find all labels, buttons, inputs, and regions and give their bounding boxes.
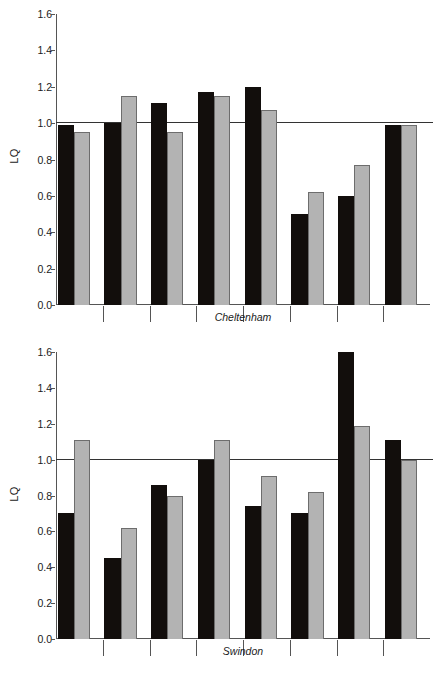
- y-tick-label: 1.2: [26, 419, 52, 429]
- y-axis-tick-labels: 0.00.20.40.60.81.01.21.41.6: [22, 0, 52, 325]
- y-tick-label: 1.0: [26, 455, 52, 465]
- y-tick-label: 0.6: [26, 526, 52, 536]
- bar-black-1: [58, 513, 74, 639]
- bar-black-6: [291, 513, 307, 639]
- bar-gray-5: [261, 476, 277, 639]
- y-tick-mark: [51, 388, 55, 389]
- y-tick-label: 0.4: [26, 227, 52, 237]
- y-tick-mark: [51, 269, 55, 270]
- y-tick-mark: [51, 567, 55, 568]
- y-tick-label: 1.6: [26, 9, 52, 19]
- plot-area-cheltenham: [56, 14, 430, 305]
- bar-gray-1: [74, 440, 90, 639]
- plot-area-swindon: [56, 352, 430, 639]
- bar-black-8: [385, 125, 401, 305]
- bar-black-8: [385, 440, 401, 639]
- y-tick-mark: [51, 496, 55, 497]
- y-tick-mark: [51, 160, 55, 161]
- y-tick-mark: [51, 123, 55, 124]
- bar-black-1: [58, 125, 74, 305]
- bar-black-4: [198, 460, 214, 639]
- bar-gray-7: [354, 165, 370, 305]
- bar-black-5: [245, 87, 261, 305]
- figure-page: LQ 0.00.20.40.60.81.01.21.41.6 Cheltenha…: [0, 0, 433, 674]
- bar-gray-2: [121, 96, 137, 305]
- bar-gray-3: [167, 132, 183, 305]
- y-axis-tick-labels: 0.00.20.40.60.81.01.21.41.6: [22, 340, 52, 659]
- bar-gray-3: [167, 496, 183, 640]
- y-tick-label: 0.2: [26, 598, 52, 608]
- y-tick-mark: [51, 460, 55, 461]
- x-axis-label-cheltenham: Cheltenham: [56, 311, 430, 323]
- y-tick-mark: [51, 232, 55, 233]
- y-tick-mark: [51, 196, 55, 197]
- y-tick-mark: [51, 424, 55, 425]
- bar-black-4: [198, 92, 214, 305]
- bar-black-6: [291, 214, 307, 305]
- x-axis-label-swindon: Swindon: [56, 645, 430, 657]
- y-axis-label: LQ: [8, 486, 20, 501]
- y-tick-label: 1.4: [26, 383, 52, 393]
- y-tick-label: 1.6: [26, 347, 52, 357]
- bar-black-5: [245, 506, 261, 639]
- bar-gray-6: [308, 492, 324, 639]
- bar-gray-1: [74, 132, 90, 305]
- y-tick-label: 0.8: [26, 155, 52, 165]
- y-tick-label: 1.4: [26, 45, 52, 55]
- y-tick-label: 0.0: [26, 300, 52, 310]
- chart-panel-cheltenham: LQ 0.00.20.40.60.81.01.21.41.6 Cheltenha…: [0, 0, 433, 340]
- bar-gray-8: [401, 125, 417, 305]
- y-tick-label: 0.4: [26, 562, 52, 572]
- bar-black-2: [104, 558, 120, 639]
- y-tick-mark: [51, 305, 55, 306]
- y-tick-mark: [51, 50, 55, 51]
- bar-gray-4: [214, 440, 230, 639]
- bar-black-2: [104, 123, 120, 305]
- bar-black-3: [151, 103, 167, 305]
- y-tick-label: 0.0: [26, 634, 52, 644]
- bar-black-7: [338, 196, 354, 305]
- y-tick-label: 1.2: [26, 82, 52, 92]
- chart-panel-swindon: LQ 0.00.20.40.60.81.01.21.41.6 Swindon: [0, 340, 433, 674]
- bar-gray-6: [308, 192, 324, 305]
- bar-gray-5: [261, 110, 277, 305]
- y-tick-mark: [51, 352, 55, 353]
- y-tick-label: 0.8: [26, 491, 52, 501]
- y-tick-label: 0.2: [26, 264, 52, 274]
- bar-gray-7: [354, 426, 370, 639]
- y-tick-mark: [51, 639, 55, 640]
- bar-gray-8: [401, 460, 417, 639]
- bar-black-7: [338, 352, 354, 639]
- bar-gray-4: [214, 96, 230, 305]
- y-tick-mark: [51, 14, 55, 15]
- y-tick-label: 0.6: [26, 191, 52, 201]
- y-tick-mark: [51, 87, 55, 88]
- y-axis-label: LQ: [8, 148, 20, 163]
- bar-gray-2: [121, 528, 137, 639]
- reference-line-1: [56, 459, 433, 460]
- y-tick-label: 1.0: [26, 118, 52, 128]
- y-tick-mark: [51, 603, 55, 604]
- y-tick-mark: [51, 531, 55, 532]
- bar-black-3: [151, 485, 167, 639]
